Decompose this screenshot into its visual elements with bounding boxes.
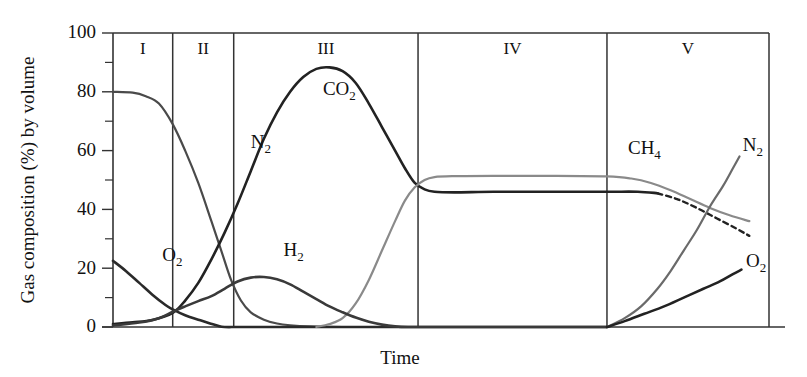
- x-axis-title: Time: [380, 347, 419, 368]
- plot-frame: [102, 33, 785, 327]
- y-tick-label: 80: [77, 80, 96, 101]
- curve-co2: [113, 67, 657, 324]
- y-tick-label: 0: [87, 315, 97, 336]
- curve-h2: [113, 277, 607, 327]
- phase-label-iv: IV: [504, 39, 523, 58]
- y-tick-labels: 020406080100: [68, 21, 97, 336]
- gas-composition-chart: Gas composition (%) by volume Time 02040…: [0, 0, 807, 377]
- series-curves: [113, 67, 749, 327]
- curve-o2: [113, 261, 607, 327]
- chart-svg: Gas composition (%) by volume Time 02040…: [0, 0, 807, 377]
- curve-co2-dashed: [657, 193, 749, 236]
- phase-label-ii: II: [198, 39, 210, 58]
- series-label-ch4: CH4: [628, 137, 661, 162]
- y-tick-label: 40: [77, 198, 96, 219]
- phase-label-i: I: [140, 39, 146, 58]
- series-label-n2-phase5: N2: [743, 134, 763, 159]
- phase-label-iii: III: [317, 39, 334, 58]
- y-tick-label: 100: [68, 21, 97, 42]
- y-tick-marks: [102, 33, 113, 327]
- series-label-h2: H2: [284, 239, 304, 264]
- y-tick-label: 60: [77, 139, 96, 160]
- series-label-o2-phase5: O2: [746, 250, 766, 275]
- y-tick-label: 20: [77, 257, 96, 278]
- series-label-co2: CO2: [323, 78, 356, 103]
- series-label-n2: N2: [251, 131, 271, 156]
- y-axis-title: Gas composition (%) by volume: [17, 57, 39, 304]
- phase-dividers: [173, 33, 607, 327]
- curve-o2_phase5: [607, 270, 741, 327]
- phase-label-v: V: [682, 39, 695, 58]
- curve-n2: [113, 92, 607, 327]
